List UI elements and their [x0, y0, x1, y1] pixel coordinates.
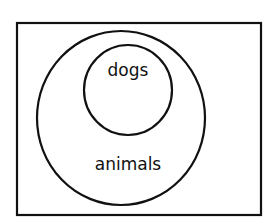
animals-circle	[37, 31, 205, 205]
dogs-label: dogs	[108, 60, 149, 80]
animals-label: animals	[95, 154, 162, 174]
venn-diagram: dogs animals	[0, 0, 263, 223]
dogs-circle	[84, 45, 172, 135]
universe-rectangle	[17, 23, 261, 215]
